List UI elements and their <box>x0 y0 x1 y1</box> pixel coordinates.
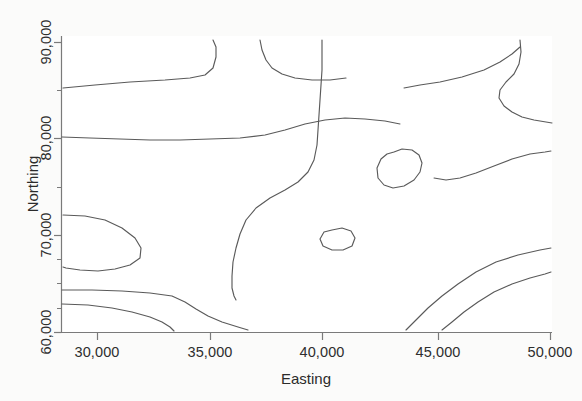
contour-plot-canvas <box>0 0 582 401</box>
contour-plot-screenshot: 30,00035,00040,00045,00050,000 90,00080,… <box>0 0 582 401</box>
x-axis-tick-label: 35,000 <box>188 344 233 360</box>
y-axis-tick-label: 90,000 <box>38 20 54 65</box>
x-axis-major-ticks <box>98 333 551 341</box>
x-axis-tick-label: 45,000 <box>416 344 461 360</box>
plot-area <box>61 36 552 332</box>
y-axis-tick-label: 60,000 <box>38 310 54 355</box>
y-axis-minor-ticks <box>57 91 62 309</box>
x-axis-tick-label: 30,000 <box>75 344 120 360</box>
x-axis-tick-label: 40,000 <box>300 344 345 360</box>
x-axis-tick-label: 50,000 <box>528 344 573 360</box>
y-axis-tick-label: 80,000 <box>38 116 54 161</box>
x-axis-title: Easting <box>281 370 331 387</box>
y-axis-tick-label: 70,000 <box>38 213 54 258</box>
y-axis-title: Northing <box>24 156 41 213</box>
